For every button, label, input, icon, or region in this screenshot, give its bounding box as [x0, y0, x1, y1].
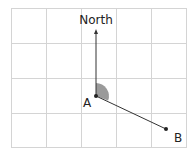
- point-b-label: B: [174, 131, 182, 145]
- line-ab: [96, 96, 166, 129]
- bearing-angle-sector: [96, 83, 109, 101]
- point-a: [94, 94, 98, 98]
- north-arrowhead-icon: [94, 29, 98, 34]
- point-b: [164, 127, 168, 131]
- north-label: North: [79, 13, 113, 27]
- point-a-label: A: [83, 96, 92, 110]
- bearing-diagram: North A B: [0, 0, 196, 155]
